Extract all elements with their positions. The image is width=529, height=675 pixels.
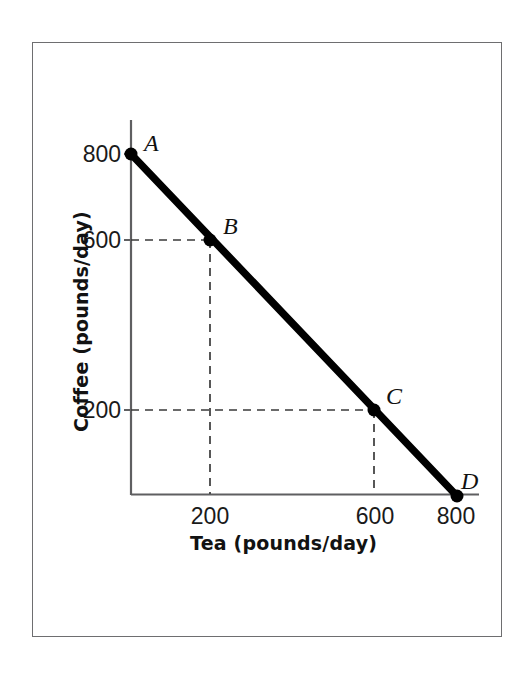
point-label-c: C xyxy=(386,383,402,410)
point-label-a: A xyxy=(144,130,159,157)
y-axis-title: Coffee (pounds/day) xyxy=(70,211,92,432)
point-label-d: D xyxy=(461,468,478,495)
x-axis-title: Tea (pounds/day) xyxy=(190,532,377,554)
x-tick-label-600: 600 xyxy=(356,503,394,530)
x-tick-label-800: 800 xyxy=(437,503,475,530)
y-tick-label-800: 800 xyxy=(83,141,121,168)
x-tick-label-200: 200 xyxy=(191,503,229,530)
point-label-b: B xyxy=(223,213,238,240)
